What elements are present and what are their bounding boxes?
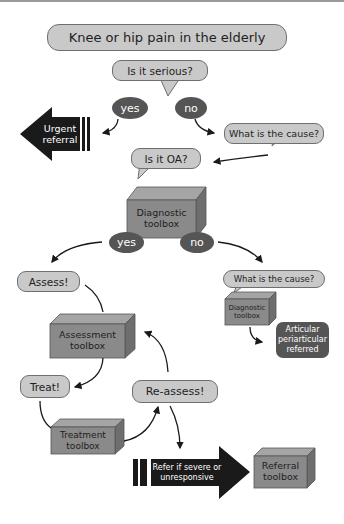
oa-no-label: no: [190, 236, 204, 249]
articular-label: Articular periarticular referred: [276, 325, 329, 355]
oa-no-oval: no: [180, 232, 214, 253]
referral-toolbox-label: Referral toolbox: [254, 461, 307, 483]
oa-yes-label: yes: [117, 236, 136, 249]
treatment-toolbox-label: Treatment toolbox: [51, 430, 115, 451]
diagnostic-toolbox-2: Diagnostic toolbox: [225, 299, 269, 325]
assessment-toolbox-label: Assessment toolbox: [50, 330, 125, 352]
title-banner: Knee or hip pain in the elderly: [47, 24, 287, 51]
urgent-referral-text: Urgent referral: [38, 123, 82, 146]
is-oa-bubble: Is it OA?: [131, 148, 201, 169]
referral-toolbox: Referral toolbox: [254, 456, 307, 488]
is-serious-label: Is it serious?: [127, 65, 193, 77]
refer-label: Refer if severe or unresponsive: [151, 459, 223, 486]
diagnostic-toolbox-2-label: Diagnostic toolbox: [225, 304, 269, 320]
is-oa-label: Is it OA?: [144, 153, 187, 165]
serious-no-oval: no: [175, 97, 207, 119]
serious-yes-label: yes: [120, 102, 139, 115]
reassess-bubble: Re-assess!: [132, 380, 218, 403]
reassess-label: Re-assess!: [146, 385, 205, 398]
title-text: Knee or hip pain in the elderly: [69, 30, 266, 45]
serious-no-label: no: [184, 102, 198, 115]
treat-label: Treat!: [30, 381, 60, 393]
assessment-toolbox: Assessment toolbox: [50, 324, 125, 358]
diagnostic-toolbox-1-label: Diagnostic toolbox: [127, 208, 196, 230]
assess-label: Assess!: [29, 276, 69, 288]
refer-text: Refer if severe or unresponsive: [151, 463, 223, 482]
what-cause-bubble-1: What is the cause?: [224, 123, 324, 144]
treat-bubble: Treat!: [20, 375, 70, 398]
treatment-toolbox: Treatment toolbox: [51, 427, 115, 454]
serious-yes-oval: yes: [112, 97, 148, 119]
diagnostic-toolbox-1: Diagnostic toolbox: [127, 200, 196, 238]
oa-yes-oval: yes: [109, 232, 144, 253]
is-serious-bubble: Is it serious?: [112, 60, 208, 81]
urgent-referral-label: Urgent referral: [38, 117, 82, 151]
what-cause-bubble-2: What is the cause?: [223, 270, 325, 288]
what-cause-label-2: What is the cause?: [234, 274, 315, 284]
articular-box: Articular periarticular referred: [276, 322, 329, 358]
what-cause-label-1: What is the cause?: [229, 128, 319, 139]
assess-bubble: Assess!: [17, 271, 80, 292]
